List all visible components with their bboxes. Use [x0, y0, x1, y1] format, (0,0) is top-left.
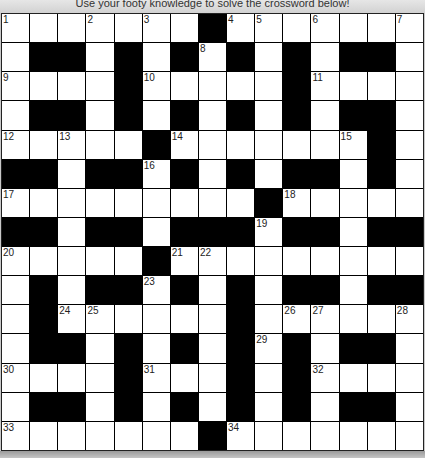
- answer-cell[interactable]: [199, 160, 226, 188]
- answer-cell[interactable]: [283, 14, 310, 42]
- answer-cell[interactable]: 9: [2, 72, 29, 100]
- answer-cell[interactable]: [30, 247, 57, 275]
- answer-cell[interactable]: [396, 131, 423, 159]
- answer-cell[interactable]: [143, 101, 170, 129]
- answer-cell[interactable]: [340, 276, 367, 304]
- answer-cell[interactable]: [171, 422, 198, 450]
- answer-cell[interactable]: [340, 72, 367, 100]
- answer-cell[interactable]: 25: [86, 305, 113, 333]
- answer-cell[interactable]: [311, 334, 338, 362]
- answer-cell[interactable]: [143, 393, 170, 421]
- answer-cell[interactable]: 11: [311, 72, 338, 100]
- answer-cell[interactable]: 27: [311, 305, 338, 333]
- answer-cell[interactable]: [199, 305, 226, 333]
- answer-cell[interactable]: [2, 393, 29, 421]
- answer-cell[interactable]: 32: [311, 364, 338, 392]
- answer-cell[interactable]: [368, 247, 395, 275]
- answer-cell[interactable]: [396, 393, 423, 421]
- answer-cell[interactable]: [368, 364, 395, 392]
- answer-cell[interactable]: [30, 72, 57, 100]
- answer-cell[interactable]: 12: [2, 131, 29, 159]
- answer-cell[interactable]: 22: [199, 247, 226, 275]
- answer-cell[interactable]: 31: [143, 364, 170, 392]
- answer-cell[interactable]: [255, 101, 282, 129]
- answer-cell[interactable]: 30: [2, 364, 29, 392]
- answer-cell[interactable]: 3: [143, 14, 170, 42]
- answer-cell[interactable]: [199, 72, 226, 100]
- answer-cell[interactable]: [368, 422, 395, 450]
- answer-cell[interactable]: [311, 43, 338, 71]
- answer-cell[interactable]: [143, 218, 170, 246]
- answer-cell[interactable]: [115, 131, 142, 159]
- answer-cell[interactable]: 29: [255, 334, 282, 362]
- answer-cell[interactable]: 14: [171, 131, 198, 159]
- answer-cell[interactable]: [58, 72, 85, 100]
- answer-cell[interactable]: [255, 43, 282, 71]
- answer-cell[interactable]: [340, 247, 367, 275]
- answer-cell[interactable]: [86, 393, 113, 421]
- answer-cell[interactable]: [2, 276, 29, 304]
- answer-cell[interactable]: [86, 131, 113, 159]
- answer-cell[interactable]: [368, 305, 395, 333]
- answer-cell[interactable]: [396, 101, 423, 129]
- answer-cell[interactable]: [311, 422, 338, 450]
- answer-cell[interactable]: 2: [86, 14, 113, 42]
- answer-cell[interactable]: [368, 189, 395, 217]
- answer-cell[interactable]: [255, 72, 282, 100]
- answer-cell[interactable]: [199, 364, 226, 392]
- answer-cell[interactable]: [255, 305, 282, 333]
- answer-cell[interactable]: [86, 247, 113, 275]
- answer-cell[interactable]: [2, 305, 29, 333]
- answer-cell[interactable]: [283, 247, 310, 275]
- answer-cell[interactable]: [115, 189, 142, 217]
- answer-cell[interactable]: [58, 160, 85, 188]
- answer-cell[interactable]: 23: [143, 276, 170, 304]
- answer-cell[interactable]: [58, 218, 85, 246]
- answer-cell[interactable]: [340, 364, 367, 392]
- answer-cell[interactable]: [227, 189, 254, 217]
- answer-cell[interactable]: [396, 422, 423, 450]
- answer-cell[interactable]: [30, 364, 57, 392]
- answer-cell[interactable]: [368, 14, 395, 42]
- answer-cell[interactable]: 24: [58, 305, 85, 333]
- answer-cell[interactable]: [311, 393, 338, 421]
- answer-cell[interactable]: 5: [255, 14, 282, 42]
- answer-cell[interactable]: [340, 422, 367, 450]
- answer-cell[interactable]: [311, 189, 338, 217]
- answer-cell[interactable]: [311, 101, 338, 129]
- answer-cell[interactable]: [396, 334, 423, 362]
- answer-cell[interactable]: 8: [199, 43, 226, 71]
- answer-cell[interactable]: [396, 247, 423, 275]
- answer-cell[interactable]: [199, 101, 226, 129]
- answer-cell[interactable]: 18: [283, 189, 310, 217]
- answer-cell[interactable]: [58, 422, 85, 450]
- answer-cell[interactable]: [171, 189, 198, 217]
- answer-cell[interactable]: [340, 14, 367, 42]
- answer-cell[interactable]: [340, 218, 367, 246]
- answer-cell[interactable]: [115, 247, 142, 275]
- answer-cell[interactable]: [86, 364, 113, 392]
- answer-cell[interactable]: [2, 334, 29, 362]
- answer-cell[interactable]: [143, 334, 170, 362]
- answer-cell[interactable]: [396, 364, 423, 392]
- answer-cell[interactable]: [255, 160, 282, 188]
- answer-cell[interactable]: [396, 43, 423, 71]
- answer-cell[interactable]: 26: [283, 305, 310, 333]
- answer-cell[interactable]: [255, 393, 282, 421]
- answer-cell[interactable]: [396, 160, 423, 188]
- answer-cell[interactable]: 19: [255, 218, 282, 246]
- answer-cell[interactable]: 10: [143, 72, 170, 100]
- answer-cell[interactable]: [86, 101, 113, 129]
- answer-cell[interactable]: [171, 364, 198, 392]
- answer-cell[interactable]: 15: [340, 131, 367, 159]
- answer-cell[interactable]: [86, 72, 113, 100]
- answer-cell[interactable]: [283, 422, 310, 450]
- answer-cell[interactable]: [171, 72, 198, 100]
- answer-cell[interactable]: [115, 14, 142, 42]
- answer-cell[interactable]: 6: [311, 14, 338, 42]
- answer-cell[interactable]: [311, 247, 338, 275]
- answer-cell[interactable]: [255, 247, 282, 275]
- answer-cell[interactable]: [311, 131, 338, 159]
- answer-cell[interactable]: 33: [2, 422, 29, 450]
- answer-cell[interactable]: [396, 189, 423, 217]
